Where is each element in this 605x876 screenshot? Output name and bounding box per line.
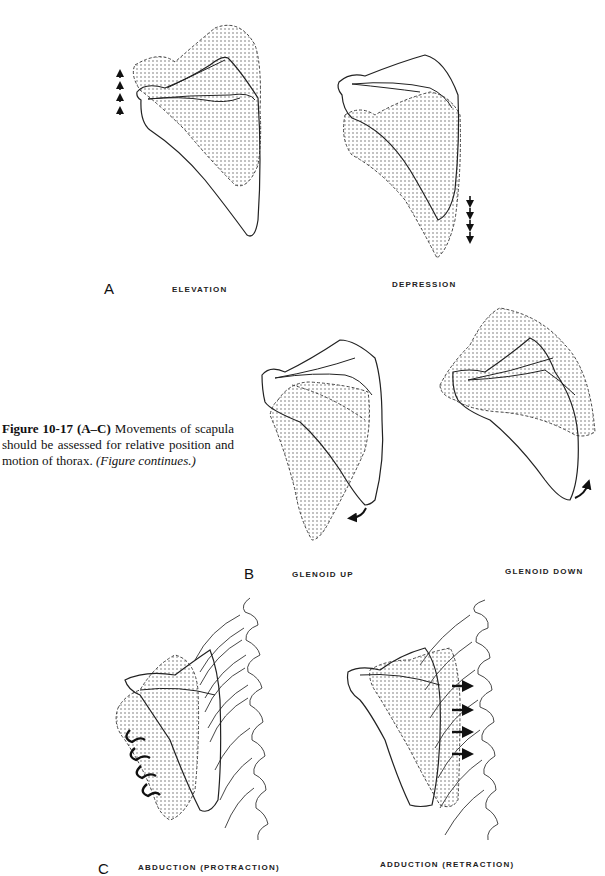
figure-panels-ref: (A–C)	[77, 421, 111, 436]
caption-note: (Figure continues.)	[93, 453, 196, 468]
panel-a-left-label: ELEVATION	[172, 285, 227, 294]
panel-c-letter: C	[98, 860, 109, 876]
figure-number-text: Figure 10-17	[2, 421, 73, 436]
panel-b-letter: B	[244, 565, 254, 582]
figure-caption: Figure 10-17 (A–C) Movements of scapula …	[2, 421, 234, 469]
panel-a-letter: A	[104, 280, 114, 297]
scapula-adduction-drawing	[348, 648, 461, 807]
panel-c-right-label: ADDUCTION (RETRACTION)	[380, 860, 514, 869]
scapula-depression-drawing	[338, 55, 460, 258]
scapula-glenoid-down-drawing	[440, 308, 595, 500]
panel-b-right-label: GLENOID DOWN	[505, 567, 583, 576]
panel-a-right-label: DEPRESSION	[392, 280, 456, 289]
panel-c-left-label: ABDUCTION (PROTRACTION)	[138, 863, 280, 872]
scapula-elevation-drawing	[133, 25, 260, 236]
figure-number: Figure 10-17 (A–C)	[2, 421, 111, 436]
panel-b-left-label: GLENOID UP	[292, 570, 354, 579]
curved-arrow-up-icon	[575, 484, 588, 498]
curved-arrow-down-icon	[352, 508, 366, 518]
ribcage-left-drawing	[195, 598, 268, 840]
